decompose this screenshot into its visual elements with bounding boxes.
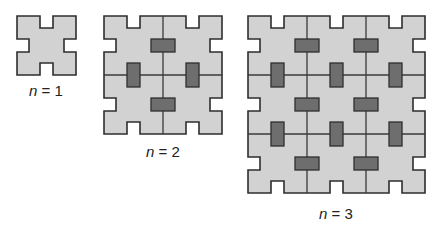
connector-vertical xyxy=(330,63,343,87)
connector-vertical xyxy=(330,122,343,146)
tiling-n3 xyxy=(248,16,425,193)
connector-horizontal xyxy=(151,98,175,111)
connector-horizontal xyxy=(354,39,378,52)
tiling-n2 xyxy=(104,16,222,134)
label-value: = 2 xyxy=(154,143,179,160)
connector-horizontal xyxy=(354,98,378,111)
connector-horizontal xyxy=(151,39,175,52)
connector-vertical xyxy=(389,122,402,146)
tiling-diagram xyxy=(0,0,439,239)
tiling-n1 xyxy=(17,16,76,75)
connector-vertical xyxy=(271,63,284,87)
connector-horizontal xyxy=(295,157,319,170)
label-n1: n = 1 xyxy=(29,82,63,99)
tiling-figure: n = 1 n = 2 n = 3 xyxy=(0,0,439,239)
tile-outline xyxy=(248,16,425,193)
label-n2: n = 2 xyxy=(146,143,180,160)
label-value: = 1 xyxy=(37,82,62,99)
connector-horizontal xyxy=(354,157,378,170)
connector-horizontal xyxy=(295,39,319,52)
connector-horizontal xyxy=(295,98,319,111)
tile-outline xyxy=(17,16,76,75)
label-value: = 3 xyxy=(327,205,352,222)
connector-vertical xyxy=(389,63,402,87)
connector-vertical xyxy=(186,63,199,87)
connector-vertical xyxy=(271,122,284,146)
label-n3: n = 3 xyxy=(319,205,353,222)
connector-vertical xyxy=(127,63,140,87)
